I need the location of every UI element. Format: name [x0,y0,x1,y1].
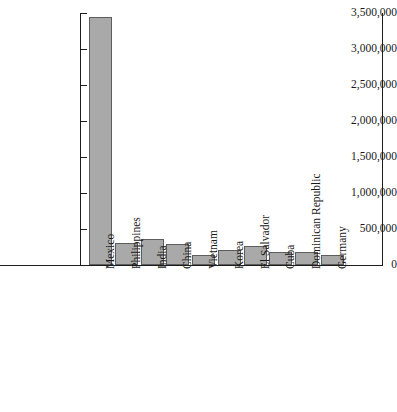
x-axis-tick-label: Korea [234,241,246,269]
x-axis-tick-label: Cuba [285,245,297,269]
bar [89,17,112,265]
chart-title [0,0,397,3]
x-axis-tick-label: Vietnam [208,230,220,269]
x-axis-tick-label: Mexico [105,234,117,269]
x-axis-tick-label: Dominican Republic [311,174,323,270]
x-axis-tick-label: El Salvador [260,215,272,269]
x-axis-tick-label: China [182,242,194,269]
x-axis-tick-label: Germany [337,226,349,269]
bar-chart: 0500,0001,000,0001,500,0002,000,0002,500… [0,0,397,412]
x-axis-tick-label: Philippines [131,217,143,269]
x-axis-tick-label: India [157,245,169,269]
